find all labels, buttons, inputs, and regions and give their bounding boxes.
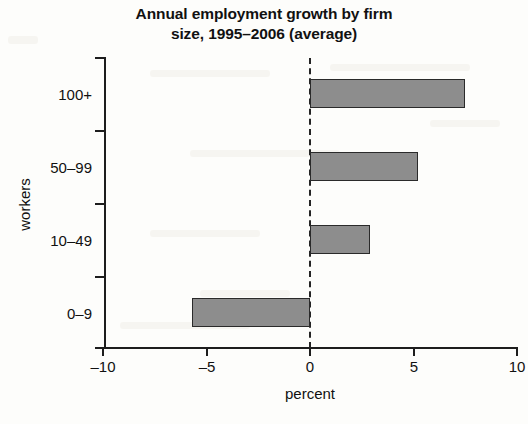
y-axis-label-0-9: 0–9	[14, 305, 92, 322]
scan-artifact	[8, 36, 38, 44]
chart-figure: Annual employment growth by firm size, 1…	[0, 0, 528, 424]
y-axis-title: workers	[16, 157, 33, 253]
scan-artifact	[150, 70, 270, 77]
x-axis-label-10: 10	[487, 358, 528, 375]
x-axis-title: percent	[200, 385, 420, 402]
y-axis-tick	[95, 203, 104, 205]
scan-artifact	[150, 230, 260, 237]
x-axis-tick	[102, 347, 104, 356]
y-axis-tick	[95, 57, 104, 59]
bar-10-49[interactable]	[310, 225, 370, 254]
scan-artifact	[430, 120, 500, 127]
bar-100-plus[interactable]	[310, 79, 465, 108]
x-axis-label-zero: 0	[280, 358, 340, 375]
x-axis-tick	[206, 347, 208, 356]
x-axis-label-neg5: –5	[177, 358, 237, 375]
chart-title-line-1: Annual employment growth by firm	[64, 4, 464, 24]
y-axis-line	[104, 57, 106, 349]
y-axis-tick	[95, 276, 104, 278]
y-axis-tick	[95, 130, 104, 132]
x-axis-tick	[309, 347, 311, 356]
y-axis-label-100-plus: 100+	[14, 86, 92, 103]
x-axis-tick	[516, 347, 518, 356]
x-axis-label-neg10: –10	[73, 358, 133, 375]
x-axis-label-5: 5	[384, 358, 444, 375]
bar-50-99[interactable]	[310, 152, 418, 181]
bar-0-9[interactable]	[192, 298, 310, 327]
chart-title: Annual employment growth by firm size, 1…	[64, 4, 464, 44]
chart-title-line-2: size, 1995–2006 (average)	[64, 24, 464, 44]
scan-artifact	[330, 64, 470, 71]
x-axis-tick	[413, 347, 415, 356]
scan-artifact	[200, 290, 290, 297]
